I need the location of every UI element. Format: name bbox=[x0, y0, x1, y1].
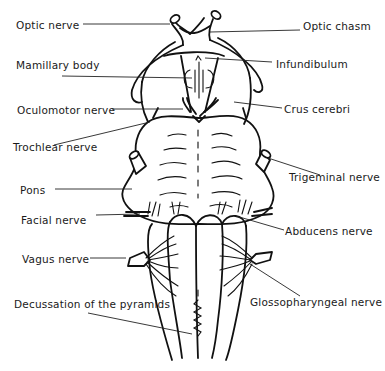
trigeminal-nerves-shape bbox=[128, 149, 272, 174]
label-abducens-nerve: Abducens nerve bbox=[285, 225, 373, 237]
label-vagus-nerve: Vagus nerve bbox=[22, 253, 89, 265]
optic-chiasm-shape bbox=[132, 9, 263, 102]
pons-shape bbox=[122, 116, 273, 224]
leader-facial-nerve bbox=[96, 214, 140, 215]
brainstem-diagram: Optic nerve Optic chasm Mamillary body I… bbox=[0, 0, 385, 371]
nerve-rootlets-shape bbox=[124, 200, 272, 216]
label-crus-cerebri: Crus cerebri bbox=[284, 103, 350, 115]
label-optic-chiasm: Optic chasm bbox=[303, 20, 371, 32]
label-trigeminal-nerve: Trigeminal nerve bbox=[289, 171, 380, 183]
label-facial-nerve: Facial nerve bbox=[21, 214, 86, 226]
leader-abducens-nerve bbox=[236, 216, 284, 230]
label-oculomotor-nerve: Oculomotor nerve bbox=[17, 104, 115, 116]
leader-glossopharyngeal-nerve bbox=[250, 264, 300, 296]
label-pons: Pons bbox=[20, 184, 45, 196]
medulla-shape bbox=[148, 215, 247, 360]
label-mamillary-body: Mamillary body bbox=[16, 59, 100, 71]
leader-optic-chiasm bbox=[210, 30, 300, 32]
brainstem-drawing bbox=[0, 0, 385, 371]
label-decussation-pyramids: Decussation of the pyramids bbox=[14, 298, 170, 310]
trochlear-right-shape bbox=[243, 108, 246, 118]
label-glossopharyngeal-nerve: Glossopharyngeal nerve bbox=[250, 296, 382, 308]
label-infundibulum: Infundibulum bbox=[276, 58, 348, 70]
trochlear-left-shape bbox=[153, 108, 158, 118]
leader-mamillary-body bbox=[62, 76, 192, 78]
leader-crus-cerebri bbox=[234, 102, 282, 108]
label-optic-nerve: Optic nerve bbox=[16, 19, 79, 31]
label-trochlear-nerve: Trochlear nerve bbox=[13, 141, 97, 153]
leader-infundibulum bbox=[205, 58, 272, 62]
